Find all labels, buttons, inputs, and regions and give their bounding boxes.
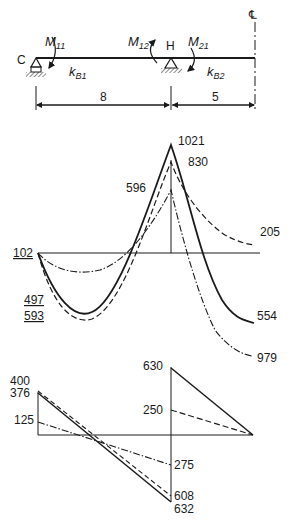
stiffness-kb2-label: kB2	[207, 64, 225, 81]
shear-right-top-dashed-value: 250	[143, 403, 163, 417]
moment-peak-dashdot-value: 596	[126, 181, 146, 195]
moment-min-solid-value: 497	[24, 293, 44, 307]
shear-right-top-solid-value: 630	[143, 359, 163, 373]
shear-line-dashed-span2	[171, 410, 253, 435]
shear-right-bottom-dashed-value: 608	[174, 489, 194, 503]
moment-m21-arrow-icon	[188, 48, 194, 71]
moment-m12-label: M12	[128, 34, 149, 51]
moment-diagram: 1021 830 596 205 102 497 593 554 979	[13, 134, 280, 365]
moment-right-dashed-value: 205	[260, 225, 280, 239]
roller-support-icon	[26, 58, 46, 77]
moment-m11-label: M11	[45, 34, 65, 51]
shear-left-solid-value: 376	[10, 386, 30, 400]
moment-m21-label: M21	[188, 34, 209, 51]
shear-right-bottom-solid-value: 632	[174, 502, 194, 516]
moment-curve-solid	[38, 145, 254, 323]
centerline-symbol: ℄	[248, 8, 257, 22]
stiffness-kb1-label: kB1	[69, 64, 87, 81]
support-c-label: C	[17, 53, 26, 67]
shear-line-solid-span2	[171, 368, 253, 435]
moment-min-dashed-value: 593	[24, 309, 44, 323]
shear-diagram: 400 376 125 630 250 275 608 632	[10, 359, 253, 516]
pin-support-icon	[161, 58, 182, 73]
shear-right-bottom-dashdot-value: 275	[174, 458, 194, 472]
moment-m12-arrow-icon	[150, 40, 157, 63]
support-h-label: H	[166, 39, 175, 53]
moment-peak-dashed-value: 830	[188, 155, 208, 169]
span-2-length: 5	[212, 90, 219, 104]
structural-diagram: ℄ C H M11 M12 M21 kB1 kB2 8 5 1021 830 5…	[0, 0, 291, 527]
shear-left-dashdot-value: 125	[14, 413, 34, 427]
beam-schematic: ℄ C H M11 M12 M21 kB1 kB2 8 5	[17, 8, 257, 112]
span-1-length: 8	[100, 90, 107, 104]
moment-left-end-value: 102	[13, 246, 33, 260]
moment-right-solid-value: 554	[257, 309, 277, 323]
moment-right-dashdot-value: 979	[257, 351, 277, 365]
moment-peak-solid-value: 1021	[178, 134, 205, 148]
